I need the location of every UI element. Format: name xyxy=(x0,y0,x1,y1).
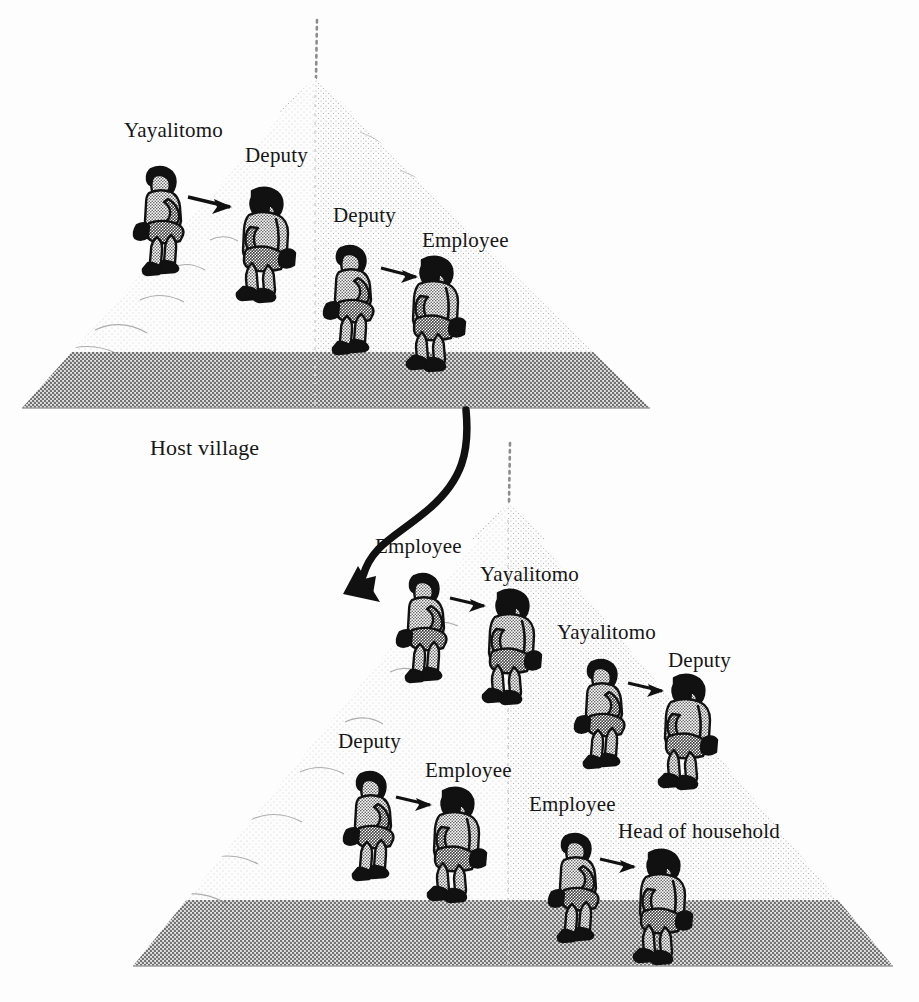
diagram-canvas: Yayalitomo Deputy Deputy Employee Host v… xyxy=(0,0,919,1002)
host-to-lower-village-arrow xyxy=(343,410,467,602)
connector-arrow-layer xyxy=(0,0,919,1002)
